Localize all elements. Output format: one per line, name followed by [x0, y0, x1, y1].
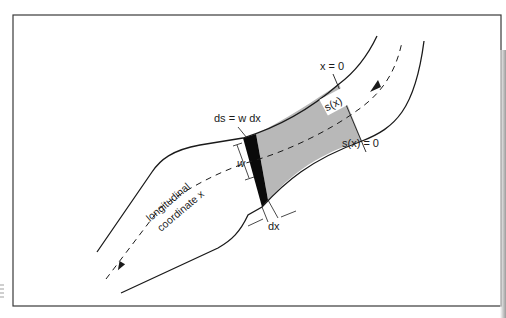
x-zero-label: x = 0	[320, 60, 344, 72]
flow-arrow-icon-lower	[117, 260, 126, 270]
w-tick-bottom	[245, 177, 254, 180]
dx-label: dx	[268, 220, 280, 232]
ds-equation-label: ds = w dx	[214, 112, 261, 124]
s-zero-label: s(x) = 0	[342, 137, 379, 149]
dx-arrow-left	[248, 219, 263, 226]
dx-arrow-right	[281, 211, 296, 217]
channel-diagram: ds = w dx w dx x = 0 s(x) s(x) = 0 longi…	[0, 0, 506, 318]
dx-extension-right	[268, 200, 278, 218]
page-edge-shadow	[500, 50, 506, 318]
flow-arrow-icon-upper	[370, 80, 381, 92]
page-edge-mark	[0, 284, 4, 300]
ds-leader-line	[238, 127, 247, 138]
w-label: w	[237, 157, 246, 169]
